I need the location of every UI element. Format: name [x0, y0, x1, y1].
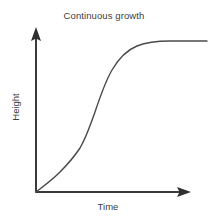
- y-axis-label: Height: [10, 91, 22, 123]
- continuous-growth-chart: Continuous growth Height Time: [0, 0, 208, 223]
- x-axis-label: Time: [78, 201, 138, 213]
- growth-curve: [36, 41, 207, 192]
- plot-area: [0, 0, 208, 223]
